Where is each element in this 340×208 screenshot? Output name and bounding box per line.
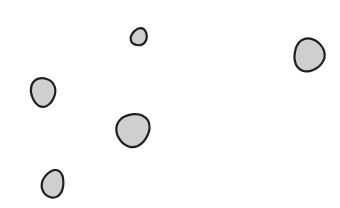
blob-left — [29, 77, 56, 108]
blob-bottom — [39, 167, 67, 199]
blob-small-top — [129, 26, 150, 49]
drawing-canvas — [0, 0, 340, 208]
blob-middle — [111, 108, 153, 151]
blob-group — [29, 26, 327, 200]
blob-drawing — [0, 0, 340, 208]
blob-right — [292, 36, 327, 74]
